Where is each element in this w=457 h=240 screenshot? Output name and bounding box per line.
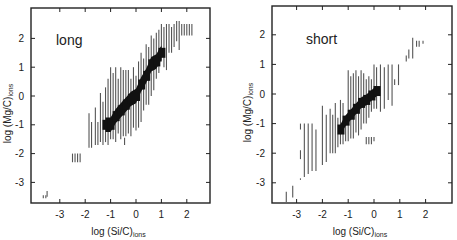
dense-point	[143, 71, 150, 81]
chart-long-svg: -3-2-1012-3-2-1012longlog (Si/C)ionslog …	[0, 0, 228, 240]
x-tick-label: 1	[397, 209, 403, 220]
x-tick-label: -1	[344, 209, 353, 220]
y-tick-label: -2	[15, 148, 24, 159]
chart-panel-short: -3-2-1012-3-2-1012shortlog (Si/C)ionslog…	[236, 0, 457, 240]
x-tick-label: -1	[106, 209, 115, 220]
x-tick-label: 2	[184, 209, 190, 220]
dense-point	[158, 48, 165, 58]
y-axis-label: log (Mg/C)ions	[242, 82, 254, 142]
x-axis-label: log (Si/C)ions	[333, 226, 388, 238]
data-bars	[286, 38, 423, 202]
y-tick-label: 2	[18, 33, 24, 44]
x-tick-label: 0	[371, 209, 377, 220]
x-tick-label: -3	[55, 209, 64, 220]
y-tick-label: -1	[256, 118, 265, 129]
y-tick-label: 0	[259, 89, 265, 100]
y-tick-label: 2	[259, 29, 265, 40]
axis-ticks: -3-2-1012-3-2-1012	[15, 8, 210, 220]
y-tick-label: 1	[259, 59, 265, 70]
dense-point	[138, 79, 145, 89]
y-tick-label: 0	[18, 91, 24, 102]
dense-point	[337, 125, 344, 135]
x-tick-label: 2	[423, 209, 429, 220]
chart-panel-long: -3-2-1012-3-2-1012longlog (Si/C)ionslog …	[0, 0, 228, 240]
y-tick-label: -3	[15, 177, 24, 188]
y-tick-label: -3	[256, 177, 265, 188]
dense-point	[374, 86, 381, 96]
x-tick-label: -2	[318, 209, 327, 220]
y-tick-label: -1	[15, 119, 24, 130]
panel-label: short	[306, 31, 337, 47]
y-tick-label: 1	[18, 62, 24, 73]
dense-point	[153, 56, 160, 66]
x-tick-label: -3	[292, 209, 301, 220]
x-tick-label: -2	[81, 209, 90, 220]
x-axis-label: log (Si/C)ions	[91, 226, 146, 238]
dense-point	[133, 91, 140, 101]
chart-short-svg: -3-2-1012-3-2-1012shortlog (Si/C)ionslog…	[236, 0, 457, 240]
x-tick-label: 0	[133, 209, 139, 220]
dense-point	[108, 120, 115, 130]
panel-label: long	[56, 32, 82, 48]
y-tick-label: -2	[256, 148, 265, 159]
y-axis-label: log (Mg/C)ions	[2, 83, 14, 143]
x-tick-label: 1	[159, 209, 165, 220]
